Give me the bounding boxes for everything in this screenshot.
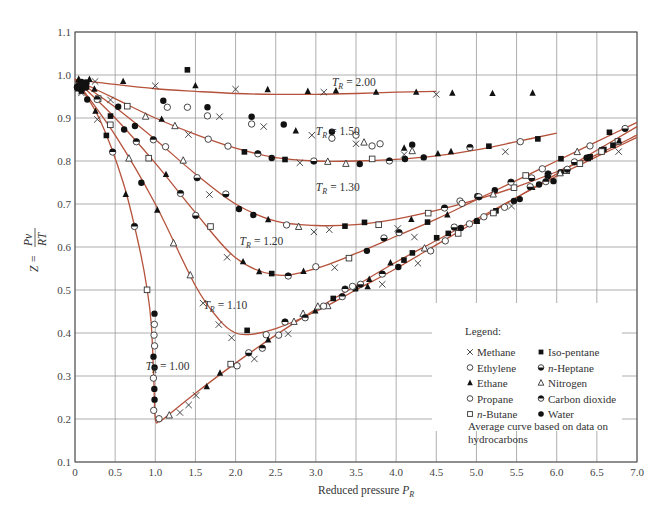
svg-text:Pv: Pv	[22, 233, 34, 247]
marker-open-square	[208, 224, 214, 230]
legend-note-2: hydrocarbons	[468, 433, 528, 445]
x-tick-label: 5.0	[470, 466, 484, 478]
marker-x	[260, 123, 266, 129]
marker-x	[251, 356, 257, 362]
marker-half-circle-top	[379, 271, 385, 277]
legend-entry-label: Methane	[477, 346, 516, 358]
legend-note-1: Average curve based on data on	[468, 420, 608, 432]
marker-filled-circle	[132, 123, 138, 129]
marker-filled-square	[282, 157, 288, 163]
x-axis-label: Reduced pressure PR	[318, 484, 414, 499]
marker-filled-circle	[204, 104, 210, 110]
marker-filled-square	[434, 235, 440, 241]
curve-label: TR= 1.10	[203, 299, 247, 314]
legend-entry-label: Ethane	[477, 377, 508, 389]
svg-text:RT: RT	[36, 231, 48, 247]
marker-open-circle	[501, 204, 507, 210]
marker-half-circle-bottom	[357, 281, 363, 287]
marker-open-square	[228, 361, 234, 367]
marker-filled-square	[410, 250, 416, 256]
marker-half-circle-top	[177, 190, 183, 196]
marker-filled-square	[607, 129, 613, 135]
marker-open-square	[124, 103, 130, 109]
marker-x	[615, 148, 621, 154]
marker-filled-triangle	[192, 82, 198, 88]
marker-x	[228, 335, 234, 341]
marker-filled-triangle	[373, 88, 379, 94]
marker-open-circle	[248, 121, 254, 127]
marker-half-circle-bottom	[476, 194, 482, 200]
y-tick-label: 0.9	[57, 112, 71, 124]
marker-filled-circle	[248, 114, 254, 120]
marker-x	[224, 254, 230, 260]
marker-filled-square	[587, 154, 593, 160]
x-tick-label: 3.0	[309, 466, 323, 478]
marker-filled-square	[242, 149, 248, 155]
marker-open-circle	[587, 143, 593, 149]
legend-title: Legend:	[465, 325, 501, 337]
marker-half-circle-top	[386, 158, 392, 164]
marker-open-circle	[275, 332, 281, 338]
x-tick-label: 3.5	[349, 466, 363, 478]
marker-half-circle-top	[538, 396, 544, 402]
legend-entry-label: Iso-pentane	[548, 346, 599, 358]
marker-filled-circle	[402, 156, 408, 162]
marker-open-circle	[442, 238, 448, 244]
x-tick-label: 1.0	[148, 466, 162, 478]
marker-filled-circle	[151, 396, 157, 402]
marker-x	[331, 264, 337, 270]
legend-entry-label: n-Heptane	[548, 362, 594, 374]
marker-filled-circle	[269, 155, 275, 161]
y-tick-label: 0.3	[57, 370, 71, 382]
legend-entry-label: Water	[548, 408, 574, 420]
marker-open-circle	[466, 221, 472, 227]
x-tick-label: 6.0	[550, 466, 564, 478]
y-tick-label: 0.5	[57, 284, 71, 296]
y-tick-label: 0.2	[57, 413, 71, 425]
marker-filled-triangle	[448, 148, 454, 154]
y-axis-label: Z = Pv RT	[22, 228, 48, 272]
marker-filled-circle	[364, 248, 370, 254]
marker-filled-circle	[357, 161, 363, 167]
marker-open-square	[146, 155, 152, 161]
x-tick-label: 7.0	[630, 466, 644, 478]
marker-open-square	[491, 210, 497, 216]
legend: Legend: MethaneEthyleneEthanePropanen-Bu…	[432, 303, 622, 445]
marker-filled-triangle	[265, 216, 271, 222]
marker-x	[285, 330, 291, 336]
marker-half-circle-bottom	[564, 166, 570, 172]
marker-open-square	[144, 287, 150, 293]
marker-open-triangle	[574, 148, 580, 154]
marker-filled-triangle	[387, 259, 393, 265]
marker-half-circle-top	[285, 273, 291, 279]
marker-x	[107, 97, 113, 103]
marker-half-circle-bottom	[381, 235, 387, 241]
marker-half-circle-bottom	[622, 125, 628, 131]
marker-half-circle-bottom	[527, 184, 533, 190]
marker-filled-square	[445, 231, 451, 237]
marker-open-circle	[164, 104, 170, 110]
marker-open-circle	[369, 143, 375, 149]
legend-entry-label: Ethylene	[477, 362, 516, 374]
x-tick-label: 6.5	[590, 466, 604, 478]
marker-open-circle	[151, 332, 157, 338]
marker-open-circle	[234, 363, 240, 369]
marker-filled-square	[330, 296, 336, 302]
marker-filled-circle	[458, 225, 464, 231]
marker-open-circle	[184, 104, 190, 110]
curve-label: TR= 1.30	[316, 181, 360, 196]
marker-filled-circle	[236, 206, 242, 212]
marker-half-circle-bottom	[245, 350, 251, 356]
marker-half-circle-top	[339, 293, 345, 299]
marker-filled-square	[342, 223, 348, 229]
marker-open-triangle	[361, 139, 367, 145]
marker-half-circle-top	[302, 315, 308, 321]
marker-half-circle-top	[342, 286, 348, 292]
y-tick-label: 0.7	[57, 198, 71, 210]
marker-half-circle-top	[508, 179, 514, 185]
marker-half-circle-top	[543, 178, 549, 184]
marker-open-circle	[313, 264, 319, 270]
marker-filled-triangle	[293, 127, 299, 133]
marker-filled-square	[425, 219, 431, 225]
marker-open-square	[425, 210, 431, 216]
